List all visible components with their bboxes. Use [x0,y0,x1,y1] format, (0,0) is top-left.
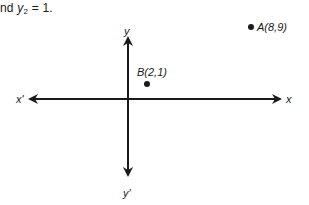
point-a: A(8,9) [248,21,287,33]
point-a-dot-icon [248,24,254,30]
point-b-dot-icon [144,81,150,87]
x-positive-label: x [285,93,292,105]
point-b: B(2,1) [137,66,167,87]
y-negative-label: y' [122,187,132,199]
coordinate-plane: y y' x x' A(8,9) B(2,1) [0,0,309,205]
x-negative-label: x' [15,93,25,105]
point-a-label: A(8,9) [256,21,287,33]
point-b-label: B(2,1) [137,66,167,78]
y-positive-label: y [123,25,131,37]
